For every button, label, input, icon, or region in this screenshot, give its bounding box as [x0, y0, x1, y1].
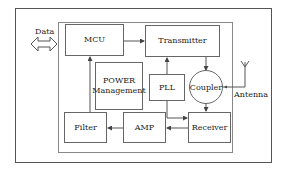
- amp-label: AMP: [135, 123, 154, 133]
- data-label: Data: [35, 27, 54, 36]
- filter-label: Filter: [74, 123, 96, 133]
- pll-block: PLL: [149, 74, 185, 101]
- coupler-label: Coupler: [190, 83, 222, 92]
- transmitter-label: Transmitter: [158, 36, 206, 46]
- antenna-label: Antenna: [234, 90, 268, 99]
- antenna-icon: [241, 61, 249, 72]
- power-label-line1: POWER: [103, 76, 135, 86]
- power-label-line2: Management: [92, 86, 145, 96]
- pll-label: PLL: [159, 83, 175, 93]
- transmitter-block: Transmitter: [145, 25, 220, 57]
- coupler-block: Coupler: [189, 70, 223, 104]
- mcu-block: MCU: [65, 24, 124, 56]
- filter-block: Filter: [64, 112, 107, 143]
- receiver-block: Receiver: [188, 112, 231, 143]
- power-management-block: POWER Management: [95, 62, 143, 110]
- mcu-label: MCU: [84, 35, 105, 45]
- receiver-label: Receiver: [192, 123, 228, 133]
- data-bidirectional-arrow-icon: [31, 37, 57, 51]
- amp-block: AMP: [123, 112, 166, 143]
